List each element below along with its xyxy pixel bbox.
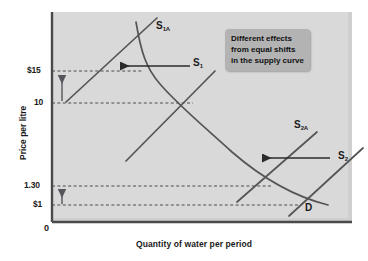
curve-label-s2-base: S xyxy=(338,150,345,161)
y-tick-label-15: $15 xyxy=(27,66,41,75)
plot-area-edge-right xyxy=(348,12,352,222)
y-tick-label-130: 1.30 xyxy=(24,181,40,190)
curve-label-s1a-sub: 1A xyxy=(163,26,170,32)
y-tick-label-1: $1 xyxy=(33,200,42,209)
curve-label-s1a-base: S xyxy=(156,20,163,31)
callout-line-1: Different effects xyxy=(231,33,304,44)
callout-box: Different effects from equal shifts in t… xyxy=(225,29,310,71)
curve-label-s1: S1 xyxy=(193,58,203,68)
curve-label-d-base: D xyxy=(305,202,312,213)
curve-label-s2a: S2A xyxy=(294,120,308,130)
curve-label-d: D xyxy=(305,203,312,213)
chart-figure: $15 10 1.30 $1 0 Price per litre Quantit… xyxy=(0,0,368,261)
origin-label: 0 xyxy=(44,224,49,233)
chart-canvas xyxy=(0,0,368,261)
callout-line-3: in the supply curve xyxy=(231,55,304,66)
curve-label-s2-sub: 2 xyxy=(345,156,348,162)
curve-label-s2a-base: S xyxy=(294,119,301,130)
callout-line-2: from equal shifts xyxy=(231,44,304,55)
curve-label-s1a: S1A xyxy=(156,21,170,31)
y-axis-title: Price per litre xyxy=(18,106,28,160)
y-tick-label-10: 10 xyxy=(34,98,43,107)
curve-label-s1-sub: 1 xyxy=(200,63,203,69)
x-axis-title: Quantity of water per period xyxy=(136,240,252,249)
curve-label-s2: S2 xyxy=(338,151,348,161)
curve-label-s1-base: S xyxy=(193,57,200,68)
curve-label-s2a-sub: 2A xyxy=(301,125,308,131)
